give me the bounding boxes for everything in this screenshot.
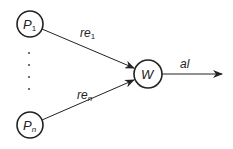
node-w: W: [134, 60, 162, 88]
edge-re1-label: re1: [80, 26, 96, 41]
ellipsis-dots: [28, 52, 30, 90]
edge-al-label: al: [180, 57, 190, 71]
node-p1: P1: [17, 11, 43, 37]
node-p1-label: P1: [23, 17, 37, 33]
node-pn-label: Pn: [23, 118, 37, 134]
node-w-label: W: [141, 67, 155, 82]
edge-ren-label: ren: [77, 88, 93, 103]
node-pn: Pn: [17, 112, 43, 138]
diagram-canvas: P1 Pn W re1 ren al: [0, 0, 233, 149]
